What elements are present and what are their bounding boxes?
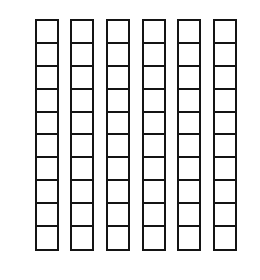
unit-square <box>70 111 94 134</box>
tens-rod-4 <box>142 19 166 251</box>
unit-square <box>70 133 94 156</box>
unit-square <box>106 179 130 202</box>
unit-square <box>70 156 94 179</box>
unit-square <box>177 133 201 156</box>
unit-square <box>213 179 237 202</box>
unit-square <box>142 65 166 88</box>
unit-square <box>213 19 237 42</box>
unit-square <box>70 179 94 202</box>
tens-rod-6 <box>213 19 237 251</box>
unit-square <box>35 156 59 179</box>
unit-square <box>106 202 130 225</box>
unit-square <box>35 202 59 225</box>
unit-square <box>142 19 166 42</box>
unit-square <box>106 156 130 179</box>
unit-square <box>177 179 201 202</box>
unit-square <box>35 88 59 111</box>
unit-square <box>35 65 59 88</box>
unit-square <box>213 42 237 65</box>
unit-square <box>142 179 166 202</box>
tens-rod-2 <box>70 19 94 251</box>
tens-rod-5 <box>177 19 201 251</box>
unit-square <box>213 88 237 111</box>
unit-square <box>177 156 201 179</box>
unit-square <box>70 202 94 225</box>
unit-square <box>70 225 94 251</box>
unit-square <box>213 111 237 134</box>
unit-square <box>142 42 166 65</box>
unit-square <box>106 42 130 65</box>
unit-square <box>213 65 237 88</box>
unit-square <box>35 111 59 134</box>
unit-square <box>70 88 94 111</box>
unit-square <box>106 225 130 251</box>
unit-square <box>213 202 237 225</box>
unit-square <box>213 225 237 251</box>
unit-square <box>177 225 201 251</box>
unit-square <box>177 88 201 111</box>
unit-square <box>177 42 201 65</box>
unit-square <box>35 133 59 156</box>
unit-square <box>142 88 166 111</box>
unit-square <box>106 88 130 111</box>
unit-square <box>142 225 166 251</box>
unit-square <box>70 65 94 88</box>
unit-square <box>142 111 166 134</box>
tens-rod-3 <box>106 19 130 251</box>
unit-square <box>106 133 130 156</box>
base-ten-rods-diagram <box>0 0 260 280</box>
unit-square <box>70 19 94 42</box>
unit-square <box>142 202 166 225</box>
unit-square <box>106 65 130 88</box>
unit-square <box>35 42 59 65</box>
unit-square <box>213 156 237 179</box>
unit-square <box>35 19 59 42</box>
unit-square <box>177 202 201 225</box>
unit-square <box>142 133 166 156</box>
unit-square <box>35 225 59 251</box>
unit-square <box>142 156 166 179</box>
unit-square <box>35 179 59 202</box>
unit-square <box>177 19 201 42</box>
unit-square <box>177 65 201 88</box>
unit-square <box>106 19 130 42</box>
unit-square <box>70 42 94 65</box>
unit-square <box>177 111 201 134</box>
tens-rod-1 <box>35 19 59 251</box>
unit-square <box>106 111 130 134</box>
unit-square <box>213 133 237 156</box>
